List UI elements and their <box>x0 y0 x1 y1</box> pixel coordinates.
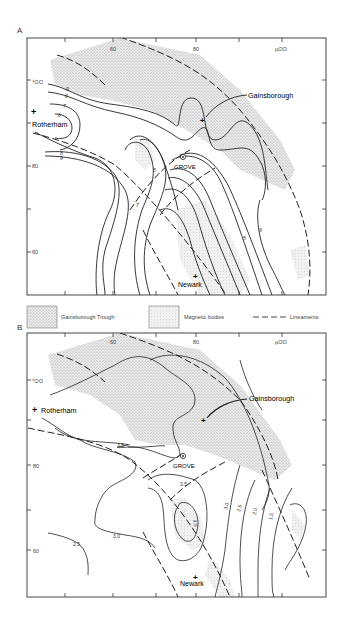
place-grove-b: GROVE <box>173 453 195 469</box>
city-marker-icon: + <box>200 116 205 125</box>
place-label: GROVE <box>174 164 196 170</box>
place-label: GROVE <box>173 463 195 469</box>
panel-b-map: 60 80 µOO ⁴OO 80 60 3.5 3.5 4.0 3.0 3.0 … <box>27 333 326 597</box>
place-label: Rotherham <box>41 406 77 415</box>
contour-label: 9 <box>259 227 262 233</box>
place-label: Gainsborough <box>249 394 294 403</box>
place-label: Newark <box>178 281 202 288</box>
panel-b-label: B <box>17 323 22 332</box>
contour-label: 3.5 <box>117 442 124 448</box>
contour-label: 2.5 <box>235 504 243 512</box>
contour-label: 7 <box>63 103 66 109</box>
legend: Gainsborough Trough Magnetic bodies Line… <box>27 306 319 328</box>
place-rotherham-b: + Rotherham <box>32 405 77 415</box>
legend-label-magnetic: Magnetic bodies <box>184 314 224 320</box>
panel-a-label: A <box>17 26 23 35</box>
place-rotherham-a: + Rotherham <box>31 107 68 129</box>
contour-line <box>240 480 255 597</box>
contour-line <box>48 533 88 575</box>
place-newark-b: + Newark <box>180 573 204 587</box>
legend-label-lineaments: Lineaments <box>290 314 319 320</box>
place-label: Gainsborough <box>248 91 293 100</box>
geophysical-map-figure: A <box>0 0 343 619</box>
contour-line <box>272 488 292 597</box>
x-tick-60: 60 <box>110 339 116 345</box>
y-tick-80: 80 <box>32 163 38 169</box>
x-tick-500: µOO <box>275 46 287 52</box>
legend-label-trough: Gainsborough Trough <box>61 314 114 320</box>
city-marker-icon: + <box>32 405 37 415</box>
x-tick-80: 80 <box>193 46 199 52</box>
contour-label: 5 <box>153 167 156 173</box>
legend-swatch-magnetic <box>149 306 179 328</box>
lineament <box>143 532 178 597</box>
contour-label: 4.0 <box>192 519 199 527</box>
lineament <box>28 428 230 597</box>
contour-line <box>258 488 270 597</box>
city-marker-icon: + <box>201 416 206 425</box>
city-marker-icon: + <box>193 272 198 281</box>
x-tick-500: µOO <box>275 339 287 345</box>
magnetic-body-area <box>290 245 310 280</box>
contour-label: 9 <box>60 155 63 161</box>
panel-a-map: 60 80 µOO ⁴OO 80 60 9 8 7 6 8 9 5 7 5 9 … <box>27 37 326 300</box>
contour-label: 8 <box>65 93 68 99</box>
contour-line <box>285 504 306 570</box>
contour-label: 9 <box>66 86 69 92</box>
contour-label: 2.5 <box>73 541 80 547</box>
contour-line <box>128 446 165 447</box>
x-tick-80: 80 <box>193 339 199 345</box>
contour-label: 5 <box>243 235 246 241</box>
x-tick-60: 60 <box>110 46 116 52</box>
legend-swatch-trough <box>27 306 57 328</box>
y-tick-80: 80 <box>33 463 39 469</box>
contour-line <box>45 152 119 295</box>
y-tick-400: ⁴OO <box>32 378 44 384</box>
contour-label: 3.0 <box>222 502 230 510</box>
lineament <box>143 230 178 295</box>
contour-label: 2.0 <box>251 507 258 515</box>
place-label: Newark <box>180 580 204 587</box>
y-tick-400: ⁴OO <box>32 79 44 85</box>
place-label: Rotherham <box>32 120 68 129</box>
contour-label: 3.5 <box>180 481 187 487</box>
city-marker-icon: + <box>31 107 36 117</box>
contour-label: 3.0 <box>113 533 120 539</box>
contour-label: 6 <box>58 112 61 118</box>
contour-line <box>258 200 285 295</box>
contour-label: 7 <box>136 202 139 208</box>
y-tick-60: 60 <box>32 249 38 255</box>
gainsborough-trough-area <box>50 38 295 190</box>
y-tick-60: 60 <box>33 548 39 554</box>
contour-label: 1.5 <box>267 512 274 520</box>
